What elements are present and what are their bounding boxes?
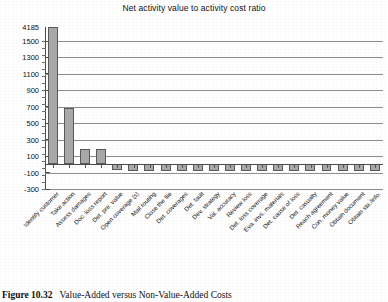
y-minor-tick bbox=[42, 147, 46, 148]
bar bbox=[96, 149, 106, 165]
y-minor-tick bbox=[42, 48, 46, 49]
figure-number: Figure 10.32 bbox=[2, 290, 53, 300]
y-minor-tick bbox=[42, 97, 46, 98]
y-minor-tick bbox=[42, 76, 46, 77]
y-minor-tick bbox=[42, 62, 46, 63]
figure-caption-text: Value-Added versus Non-Value-Added Costs bbox=[60, 290, 232, 300]
y-minor-tick bbox=[42, 168, 46, 169]
x-axis-category-labels: Identify customerTake actionAssess damag… bbox=[45, 190, 383, 280]
y-minor-tick bbox=[42, 133, 46, 134]
y-minor-tick bbox=[42, 161, 46, 162]
y-tick-label: 4185 bbox=[22, 23, 45, 32]
y-minor-tick bbox=[42, 104, 46, 105]
y-minor-tick bbox=[42, 154, 46, 155]
y-minor-tick bbox=[42, 69, 46, 70]
y-minor-tick bbox=[42, 126, 46, 127]
y-minor-tick bbox=[42, 119, 46, 120]
bar bbox=[48, 27, 58, 164]
y-minor-tick bbox=[42, 182, 46, 183]
chart-title: Net activity value to activity cost rati… bbox=[0, 3, 388, 13]
y-minor-tick bbox=[42, 111, 46, 112]
y-minor-tick bbox=[42, 90, 46, 91]
y-minor-tick bbox=[42, 41, 46, 42]
figure-caption: Figure 10.32Value-Added versus Non-Value… bbox=[2, 290, 232, 300]
y-minor-tick bbox=[42, 175, 46, 176]
bar bbox=[64, 108, 74, 164]
y-minor-tick bbox=[42, 55, 46, 56]
y-minor-tick bbox=[42, 140, 46, 141]
y-minor-tick bbox=[42, 83, 46, 84]
